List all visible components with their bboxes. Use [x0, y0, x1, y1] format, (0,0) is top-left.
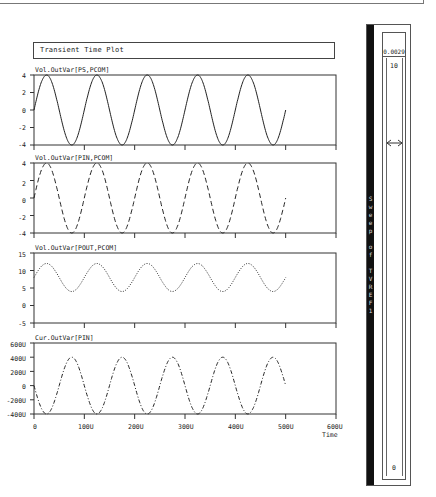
slider-track-inner[interactable] — [386, 58, 403, 476]
slider-min-label: 0 — [382, 464, 406, 472]
sweep-value-box: 0.0029 — [382, 32, 406, 57]
sweep-title: Sweep of TVREF1 — [367, 195, 374, 315]
slider-max-label: 10 — [382, 62, 406, 70]
sweep-value: 0.0029 — [383, 48, 405, 55]
series-curve — [34, 264, 286, 292]
slider-handle[interactable] — [386, 139, 403, 147]
series-curve — [34, 163, 286, 233]
series-curve — [34, 75, 286, 145]
series-curve — [34, 357, 286, 414]
